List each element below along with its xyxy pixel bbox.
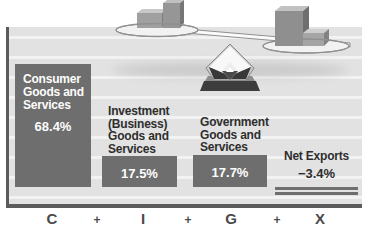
equation-term-c: C — [47, 210, 58, 228]
bar-government-value: 17.7% — [193, 165, 267, 180]
bar-government: 17.7% — [193, 155, 267, 187]
equation-term-i: I — [141, 210, 145, 228]
plus-sign: + — [93, 210, 100, 230]
bar-consumer-value: 68.4% — [15, 119, 91, 134]
bar-investment: 17.5% — [102, 156, 177, 188]
bar-investment-value: 17.5% — [102, 166, 177, 181]
label-net-exports: Net Exports — [269, 150, 364, 163]
net-exports-line-bottom — [275, 192, 358, 195]
gdp-components-figure: Consumer Goods and Services 68.4% 17.5% … — [0, 0, 365, 230]
plus-sign: + — [184, 210, 191, 230]
label-investment: Investment (Business) Goods and Services — [108, 105, 169, 155]
gdp-equation: C + I + G + X — [0, 210, 365, 230]
label-government: Government Goods and Services — [200, 116, 269, 154]
plus-sign: + — [273, 210, 280, 230]
value-net-exports: −3.4% — [269, 166, 364, 181]
balance-scale-illustration — [0, 0, 365, 100]
fulcrum-icon — [200, 44, 260, 91]
left-pan — [116, 0, 198, 37]
right-pan — [263, 6, 349, 53]
equation-term-g: G — [225, 210, 237, 228]
net-exports-line-top — [275, 187, 358, 190]
equation-term-x: X — [315, 210, 325, 228]
